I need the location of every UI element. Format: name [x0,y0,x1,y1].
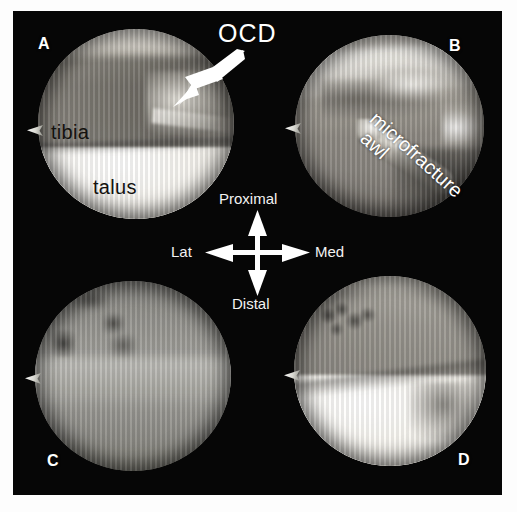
figure-root: A tibia talus B [0,0,517,512]
compass-label-med: Med [315,243,344,260]
microfracture-spot-1 [51,330,76,357]
microfracture-spot-3 [109,334,136,357]
compass-arrows-icon [193,196,323,311]
panel-b-letter: B [449,37,461,55]
panel-d-letter: D [458,451,470,469]
ocd-callout-label: OCD [218,19,277,48]
compass-label-distal: Distal [232,295,270,312]
right-edge-highlight [442,104,484,151]
microfracture-spot-4 [74,291,109,310]
lesion-bed-secondary [371,68,447,101]
ocd-arrow-icon [165,49,249,111]
compass-label-proximal: Proximal [219,190,277,207]
compass-label-lat: Lat [171,243,192,260]
panel-c-letter: C [47,452,59,470]
orientation-compass: Proximal Distal Lat Med [193,196,323,311]
microfracture-spot-2 [102,313,126,334]
panel-a-letter: A [38,35,50,53]
label-tibia: tibia [51,121,89,144]
central-bright-band [35,357,231,406]
figure-plate: A tibia talus B [13,11,502,495]
label-talus: talus [93,176,137,199]
lower-right-recess [409,382,478,439]
